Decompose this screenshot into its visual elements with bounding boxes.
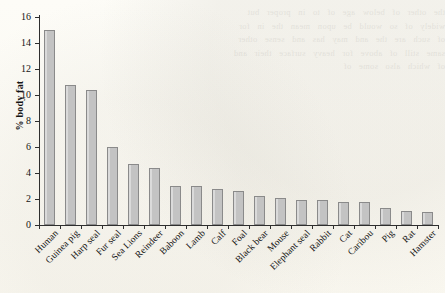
bar-rat xyxy=(401,211,412,225)
bar-hamster xyxy=(422,212,433,225)
bar-mouse xyxy=(275,198,286,225)
x-label-lamb: Lamb xyxy=(184,228,208,252)
bar-harp-seal xyxy=(86,90,97,225)
y-tick-label: 12 xyxy=(21,62,31,75)
x-axis-labels: HumanGuinea pigHarp sealFur sealSea Lion… xyxy=(39,228,439,292)
bar-human xyxy=(44,30,55,225)
x-label-calf: Calf xyxy=(209,228,229,248)
x-label-rabbit: Rabbit xyxy=(307,228,333,254)
bar-caribou xyxy=(359,202,370,225)
y-tick-label: 4 xyxy=(26,166,31,179)
bar-pig xyxy=(380,208,391,225)
y-tick-label: 14 xyxy=(21,36,31,49)
y-tick-label: 6 xyxy=(26,140,31,153)
y-tick-label: 2 xyxy=(26,192,31,205)
y-tick-label: 16 xyxy=(21,10,31,23)
bar-sea-lions xyxy=(128,164,139,225)
bar-elephant-seal xyxy=(296,200,307,225)
plot-area: 0246810121416 xyxy=(39,17,438,225)
bar-reindeer xyxy=(149,168,160,225)
bar-cat xyxy=(338,202,349,225)
bar-fur-seal xyxy=(107,147,118,225)
bar-rabbit xyxy=(317,200,328,225)
x-label-pig: Pig xyxy=(379,228,396,245)
bar-series xyxy=(39,17,438,225)
y-tick-label: 8 xyxy=(26,114,31,127)
bar-baboon xyxy=(170,186,181,225)
bar-lamb xyxy=(191,186,202,225)
bar-foal xyxy=(233,191,244,225)
x-axis-line xyxy=(39,225,439,226)
body-fat-bar-chart: % body fat 0246810121416 HumanGuinea pig… xyxy=(0,0,445,293)
bar-calf xyxy=(212,189,223,225)
bar-black-bear xyxy=(254,196,265,225)
y-tick-label: 10 xyxy=(21,88,31,101)
bar-guinea-pig xyxy=(65,85,76,225)
y-tick-label: 0 xyxy=(26,218,31,231)
